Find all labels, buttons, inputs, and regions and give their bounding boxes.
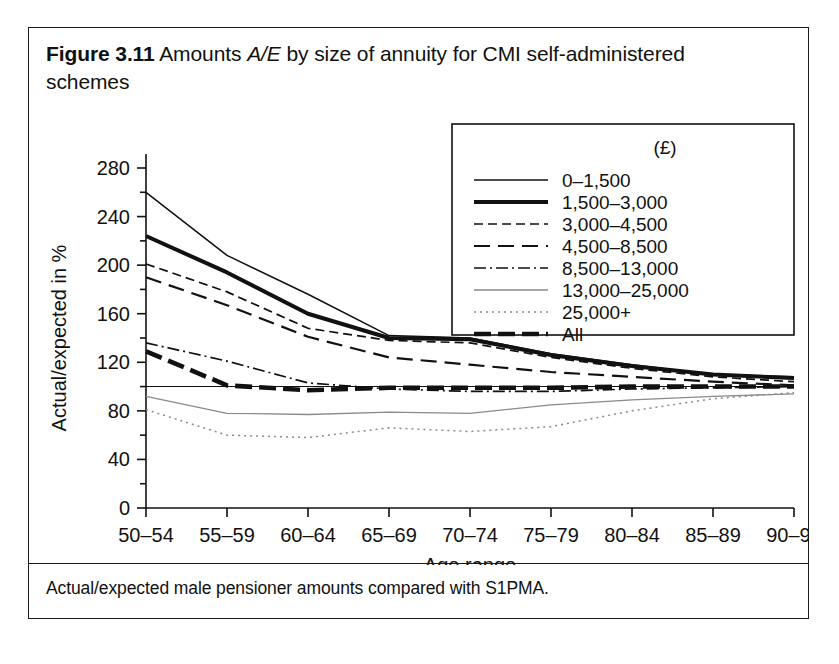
figure-page: Figure 3.11 Amounts A/E by size of annui… [0,0,839,664]
figure-number: Figure 3.11 [46,42,155,65]
y-tick-label: 0 [119,497,130,519]
chart-legend: (£)0–1,5001,500–3,0003,000–4,5004,500–8,… [452,124,794,345]
x-tick-label: 85–89 [685,524,741,546]
y-tick-label: 240 [97,206,130,228]
x-tick-labels: 50–5455–5960–6465–6970–7475–7980–8485–89… [118,524,809,546]
figure-title-italic-a: A [247,42,261,65]
legend-item-label: 13,000–25,000 [562,280,689,301]
y-tick-label: 120 [97,351,130,373]
y-axis-title: Actual/expected in % [48,244,70,431]
figure-title-italic-b: E [267,42,281,65]
series-line [146,393,794,438]
chart-plot-area: 28024020016012080400 50–5455–5960–6465–6… [28,110,809,565]
legend-item-label: 0–1,500 [562,170,631,191]
y-tick-label: 40 [108,448,130,470]
y-tick-label: 160 [97,303,130,325]
legend-item-label: 4,500–8,500 [562,236,668,257]
y-tick-labels: 28024020016012080400 [97,157,130,519]
x-tick-label: 70–74 [442,524,498,546]
line-chart: 28024020016012080400 50–5455–5960–6465–6… [28,110,809,565]
series-line [146,394,794,415]
x-tick-label: 80–84 [604,524,660,546]
x-tick-label: 65–69 [361,524,417,546]
x-tick-label: 55–59 [199,524,255,546]
legend-item-label: 8,500–13,000 [562,258,678,279]
legend-header: (£) [653,137,676,158]
legend-item-label: 25,000+ [562,302,631,323]
x-tick-label: 75–79 [523,524,579,546]
figure-footnote: Actual/expected male pensioner amounts c… [46,578,549,599]
x-tick-label: 60–64 [280,524,336,546]
figure-title-text-a: Amounts [159,42,247,65]
y-tick-label: 80 [108,400,130,422]
x-tick-label: 90–94 [766,524,809,546]
footnote-divider [28,563,809,564]
y-tick-label: 280 [97,157,130,179]
x-tick-label: 50–54 [118,524,174,546]
legend-item-label: All [562,324,583,345]
figure-title: Figure 3.11 Amounts A/E by size of annui… [46,40,746,95]
y-tick-label: 200 [97,254,130,276]
legend-item-label: 3,000–4,500 [562,214,668,235]
legend-item-label: 1,500–3,000 [562,192,668,213]
